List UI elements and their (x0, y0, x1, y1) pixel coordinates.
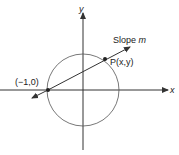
point-start-label: (−1,0) (15, 77, 39, 87)
x-axis-label: x (169, 85, 175, 95)
point-p-label: P(x,y) (110, 57, 134, 67)
slope-text: Slope (113, 35, 139, 45)
point-start (46, 88, 50, 92)
y-axis-label: y (78, 4, 84, 14)
secant-line-ext (32, 90, 48, 98)
slope-label: Slope m (113, 35, 147, 45)
unit-circle-diagram: y x Slope m P(x,y) (−1,0) (0, 0, 179, 155)
secant-line (48, 47, 130, 90)
slope-var: m (139, 35, 147, 45)
point-p (103, 57, 107, 61)
